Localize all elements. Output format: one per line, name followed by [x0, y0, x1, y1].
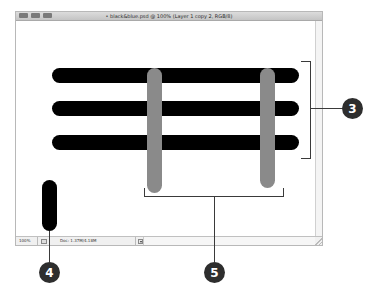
callout-4-leader — [49, 231, 50, 262]
vertical-scrollbar[interactable] — [315, 21, 322, 236]
title-bar[interactable]: • black&blue.psd @ 100% (Layer 1 copy 2,… — [16, 12, 322, 21]
document-icon[interactable] — [41, 239, 47, 244]
window-title: • black&blue.psd @ 100% (Layer 1 copy 2,… — [16, 12, 322, 20]
bracket-3-vertical — [310, 61, 311, 159]
status-bar: 100% Doc: 1.37M/4.18M — [16, 236, 322, 245]
bracket-5-right — [283, 188, 284, 197]
bracket-3-bottom — [301, 158, 311, 159]
callout-5-badge: 5 — [204, 262, 225, 283]
status-menu-arrow-icon[interactable] — [138, 239, 143, 244]
document-title: black&blue.psd @ 100% (Layer 1 copy 2, R… — [110, 13, 232, 19]
callout-5-leader — [214, 196, 215, 262]
document-window: • black&blue.psd @ 100% (Layer 1 copy 2,… — [15, 11, 323, 246]
callout-4-badge: 4 — [39, 262, 60, 283]
callout-3-leader — [310, 108, 343, 109]
zoom-level-field[interactable]: 100% — [16, 237, 38, 245]
resize-grip-icon[interactable] — [315, 237, 322, 245]
doc-size-info: Doc: 1.37M/4.18M — [50, 237, 136, 245]
gray-bar-1 — [147, 68, 162, 193]
horizontal-scrollbar[interactable] — [143, 237, 315, 245]
callout-3-badge: 3 — [342, 98, 363, 119]
black-pill — [42, 180, 57, 231]
gray-bar-2 — [260, 68, 275, 188]
